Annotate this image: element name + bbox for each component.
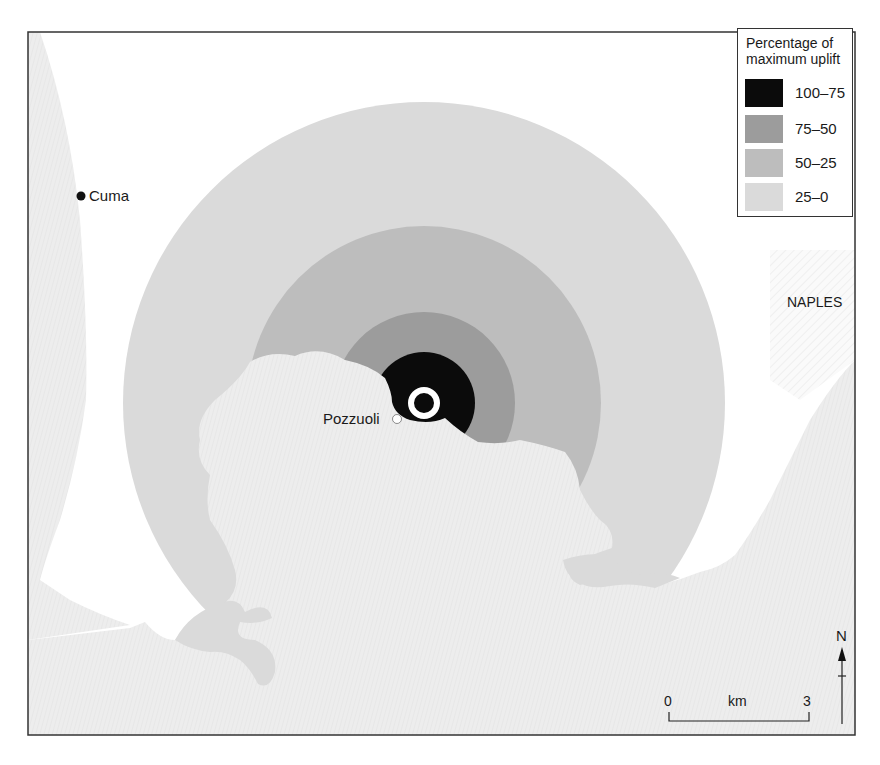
scale-start-label: 0: [664, 693, 672, 709]
legend-label: 75–50: [795, 120, 837, 137]
legend-label: 100–75: [795, 84, 845, 101]
legend-swatch: [745, 115, 783, 143]
north-label: N: [836, 627, 847, 644]
legend-item-50-25: 50–25: [745, 149, 849, 177]
legend-title-line1: Percentage of: [746, 35, 840, 51]
label-pozzuoli: Pozzuoli: [323, 410, 380, 427]
label-naples: NAPLES: [787, 294, 842, 310]
legend-label: 25–0: [795, 188, 828, 205]
pozzuoli-dot: [393, 415, 402, 424]
legend: Percentage of maximum uplift 100–75 75–5…: [737, 28, 853, 217]
scale-unit-label: km: [728, 693, 747, 709]
legend-item-75-50: 75–50: [745, 115, 849, 143]
legend-title: Percentage of maximum uplift: [746, 35, 840, 67]
legend-swatch: [745, 79, 783, 107]
legend-label: 50–25: [795, 154, 837, 171]
label-cuma: Cuma: [89, 187, 129, 204]
legend-title-line2: maximum uplift: [746, 51, 840, 67]
legend-item-100-75: 100–75: [745, 79, 849, 107]
legend-item-25-0: 25–0: [745, 183, 849, 211]
scale-end-label: 3: [803, 693, 811, 709]
cuma-dot: [77, 192, 86, 201]
legend-swatch: [745, 183, 783, 211]
legend-swatch: [745, 149, 783, 177]
